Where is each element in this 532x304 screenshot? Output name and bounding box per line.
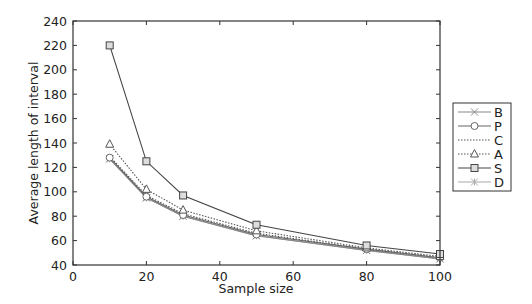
series-S	[106, 42, 443, 258]
circle-marker	[143, 193, 150, 200]
series-A	[106, 140, 444, 260]
circle-marker	[106, 154, 113, 161]
circle-marker	[471, 123, 478, 130]
y-tick-label: 140	[43, 136, 67, 151]
y-tick-label: 160	[43, 111, 67, 126]
legend-label: S	[494, 161, 502, 176]
y-tick-label: 180	[43, 87, 67, 102]
square-marker	[180, 192, 187, 199]
square-marker	[471, 165, 478, 172]
x-axis-label: Sample size	[218, 281, 293, 296]
series-line	[110, 45, 440, 254]
axes: 0204060801004060801001201401601802002202…	[43, 14, 452, 285]
y-tick-label: 220	[43, 38, 67, 53]
legend-label: A	[494, 147, 503, 162]
series-group	[106, 42, 444, 263]
x-tick-label: 100	[428, 269, 452, 284]
y-axis-label: Average length of interval	[26, 62, 41, 225]
line-chart: 0204060801004060801001201401601802002202…	[0, 0, 532, 304]
y-tick-label: 60	[51, 233, 67, 248]
legend-label: P	[494, 119, 502, 134]
triangle-marker	[142, 185, 150, 193]
square-marker	[106, 42, 113, 49]
x-tick-label: 0	[69, 269, 77, 284]
x-tick-label: 20	[138, 269, 154, 284]
y-tick-label: 240	[43, 14, 67, 29]
y-tick-label: 40	[51, 258, 67, 273]
y-tick-label: 120	[43, 160, 67, 175]
square-marker	[143, 158, 150, 165]
y-tick-label: 100	[43, 184, 67, 199]
legend: BPCASD	[453, 103, 511, 191]
triangle-marker	[106, 140, 114, 148]
series-C	[110, 156, 440, 257]
square-marker	[253, 221, 260, 228]
series-line	[110, 144, 440, 256]
square-marker	[363, 242, 370, 249]
legend-label: C	[494, 133, 503, 148]
y-tick-label: 200	[43, 62, 67, 77]
triangle-marker	[179, 206, 187, 214]
series-line	[110, 156, 440, 257]
legend-label: D	[494, 175, 504, 190]
y-tick-label: 80	[51, 209, 67, 224]
x-tick-label: 80	[359, 269, 375, 284]
series-P	[106, 154, 443, 261]
legend-label: B	[494, 105, 503, 120]
